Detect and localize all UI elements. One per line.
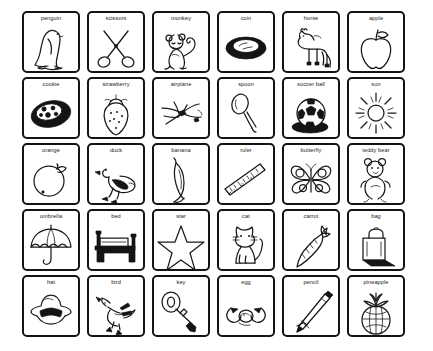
airplane-icon bbox=[154, 88, 208, 139]
penguin-icon bbox=[24, 22, 78, 73]
flashcard-banana[interactable]: banana bbox=[152, 143, 210, 205]
monkey-icon bbox=[154, 22, 208, 73]
duck-icon bbox=[89, 154, 143, 205]
umbrella-icon bbox=[24, 220, 78, 271]
bed-icon bbox=[89, 220, 143, 271]
butterfly-icon bbox=[284, 154, 338, 205]
flashcard-label: butterfly bbox=[284, 147, 338, 154]
bag-icon bbox=[349, 220, 403, 271]
flashcard-cookie[interactable]: cookie bbox=[22, 77, 80, 139]
cat-icon bbox=[219, 220, 273, 271]
apple-icon bbox=[349, 22, 403, 73]
flashcard-label: coin bbox=[219, 15, 273, 22]
flashcard-label: bed bbox=[89, 213, 143, 220]
key-icon bbox=[154, 286, 208, 337]
horse-icon bbox=[284, 22, 338, 73]
flashcard-orange[interactable]: orange bbox=[22, 143, 80, 205]
ruler-icon: 123 bbox=[219, 154, 273, 205]
soccer-ball-icon bbox=[284, 88, 338, 139]
flashcard-key[interactable]: key bbox=[152, 275, 210, 337]
bird-icon bbox=[89, 286, 143, 337]
flashcard-carrot[interactable]: carrot bbox=[282, 209, 340, 271]
flashcard-label: egg bbox=[219, 279, 273, 286]
flashcard-bird[interactable]: bird bbox=[87, 275, 145, 337]
hat-icon bbox=[24, 286, 78, 337]
flashcard-label: banana bbox=[154, 147, 208, 154]
coin-icon bbox=[219, 22, 273, 73]
banana-icon bbox=[154, 154, 208, 205]
svg-text:2: 2 bbox=[241, 182, 244, 187]
flashcard-label: carrot bbox=[284, 213, 338, 220]
star-icon bbox=[154, 220, 208, 271]
flashcard-label: hat bbox=[24, 279, 78, 286]
sun-icon bbox=[349, 88, 403, 139]
strawberry-icon bbox=[89, 88, 143, 139]
flashcard-label: duck bbox=[89, 147, 143, 154]
flashcard-label: monkey bbox=[154, 15, 208, 22]
flashcard-apple[interactable]: apple bbox=[347, 11, 405, 73]
flashcard-coin[interactable]: coin bbox=[217, 11, 275, 73]
flashcard-bed[interactable]: bed bbox=[87, 209, 145, 271]
flashcard-bag[interactable]: bag bbox=[347, 209, 405, 271]
flashcard-label: sun bbox=[349, 81, 403, 88]
flashcard-teddy-bear[interactable]: teddy bear bbox=[347, 143, 405, 205]
flashcard-pencil[interactable]: pencil bbox=[282, 275, 340, 337]
flashcard-label: teddy bear bbox=[349, 147, 403, 154]
flashcard-sun[interactable]: sun bbox=[347, 77, 405, 139]
flashcard-grid: penguinscissorsmonkeycoinhorseapplecooki… bbox=[22, 11, 405, 337]
flashcard-strawberry[interactable]: strawberry bbox=[87, 77, 145, 139]
pineapple-icon bbox=[349, 286, 403, 337]
flashcard-soccer-ball[interactable]: soccer ball bbox=[282, 77, 340, 139]
flashcard-label: bird bbox=[89, 279, 143, 286]
flashcard-penguin[interactable]: penguin bbox=[22, 11, 80, 73]
scissors-icon bbox=[89, 22, 143, 73]
flashcard-label: apple bbox=[349, 15, 403, 22]
flashcard-spoon[interactable]: spoon bbox=[217, 77, 275, 139]
flashcard-label: cookie bbox=[24, 81, 78, 88]
orange-icon bbox=[24, 154, 78, 205]
spoon-icon bbox=[219, 88, 273, 139]
egg-icon bbox=[219, 286, 273, 337]
flashcard-label: bag bbox=[349, 213, 403, 220]
cookie-icon bbox=[24, 88, 78, 139]
flashcard-scissors[interactable]: scissors bbox=[87, 11, 145, 73]
flashcard-label: spoon bbox=[219, 81, 273, 88]
flashcard-label: horse bbox=[284, 15, 338, 22]
flashcard-pineapple[interactable]: pineapple bbox=[347, 275, 405, 337]
flashcard-label: ruler bbox=[219, 147, 273, 154]
flashcard-label: key bbox=[154, 279, 208, 286]
flashcard-butterfly[interactable]: butterfly bbox=[282, 143, 340, 205]
flashcard-label: pencil bbox=[284, 279, 338, 286]
flashcard-cat[interactable]: cat bbox=[217, 209, 275, 271]
flashcard-label: airplane bbox=[154, 81, 208, 88]
flashcard-umbrella[interactable]: umbrella bbox=[22, 209, 80, 271]
flashcard-hat[interactable]: hat bbox=[22, 275, 80, 337]
flashcard-label: orange bbox=[24, 147, 78, 154]
flashcard-label: soccer ball bbox=[284, 81, 338, 88]
flashcard-horse[interactable]: horse bbox=[282, 11, 340, 73]
flashcard-label: pineapple bbox=[349, 279, 403, 286]
flashcard-monkey[interactable]: monkey bbox=[152, 11, 210, 73]
flashcard-egg[interactable]: egg bbox=[217, 275, 275, 337]
flashcard-airplane[interactable]: airplane bbox=[152, 77, 210, 139]
flashcard-duck[interactable]: duck bbox=[87, 143, 145, 205]
flashcard-ruler[interactable]: ruler123 bbox=[217, 143, 275, 205]
flashcard-label: strawberry bbox=[89, 81, 143, 88]
flashcard-label: scissors bbox=[89, 15, 143, 22]
flashcard-star[interactable]: star bbox=[152, 209, 210, 271]
carrot-icon bbox=[284, 220, 338, 271]
flashcard-label: cat bbox=[219, 213, 273, 220]
flashcard-label: umbrella bbox=[24, 213, 78, 220]
teddy-bear-icon bbox=[349, 154, 403, 205]
pencil-icon bbox=[284, 286, 338, 337]
flashcard-label: star bbox=[154, 213, 208, 220]
flashcard-label: penguin bbox=[24, 15, 78, 22]
flashcard-sheet: penguinscissorsmonkeycoinhorseapplecooki… bbox=[0, 0, 433, 351]
